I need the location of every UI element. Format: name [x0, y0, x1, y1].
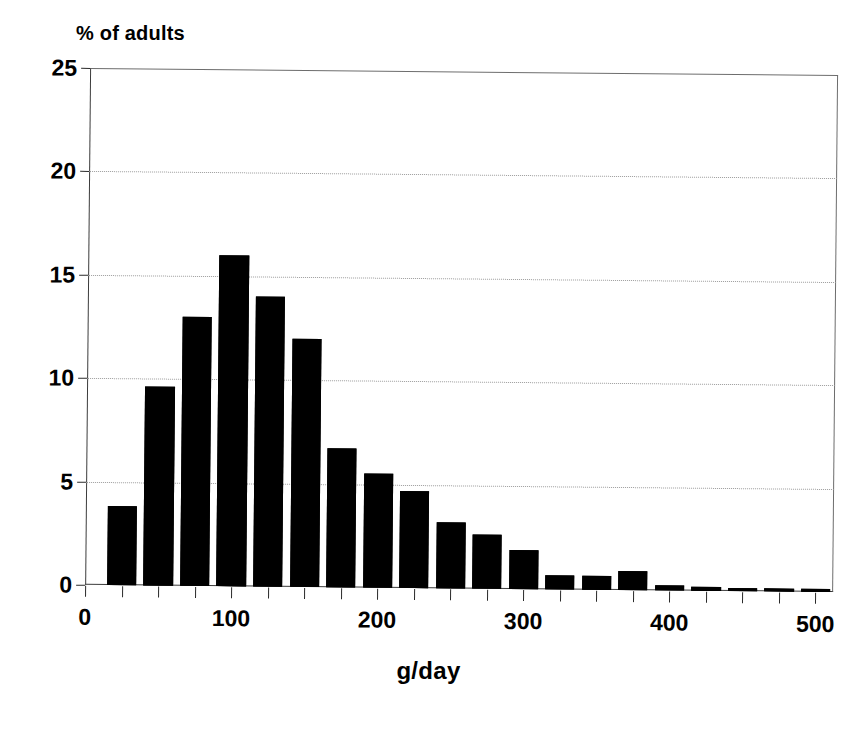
bar [253, 297, 285, 587]
bar [691, 587, 720, 591]
y-axis-tick [78, 378, 87, 379]
y-axis-tick-labels: 0510152025 [18, 67, 77, 584]
bar [217, 255, 249, 586]
x-axis-tick [195, 587, 196, 598]
x-axis-tick [596, 591, 597, 602]
x-axis-tick [85, 586, 86, 597]
x-axis-tick-label: 100 [212, 607, 251, 630]
x-axis-tick [122, 586, 123, 597]
y-axis-tick [81, 68, 90, 69]
bar [363, 474, 393, 588]
x-axis-tick [231, 587, 232, 598]
bar [180, 317, 212, 586]
x-axis-tick [268, 588, 269, 599]
bar [107, 506, 137, 585]
x-axis-tick [815, 593, 816, 604]
bar [618, 571, 647, 590]
bar [545, 575, 574, 590]
x-axis-tick [158, 587, 159, 598]
x-axis-tick-labels: 0100200300400500 [0, 605, 857, 653]
bar [399, 491, 429, 588]
x-axis-tick [341, 588, 342, 599]
y-axis-tick [79, 275, 88, 276]
y-axis-tick-label: 5 [60, 470, 73, 493]
x-axis-tick [742, 592, 743, 603]
bar [728, 588, 757, 591]
bar [509, 550, 539, 590]
x-axis-tick-label: 300 [504, 610, 543, 633]
y-axis-tick [77, 481, 86, 482]
bar [290, 339, 322, 587]
y-axis-tick [80, 171, 89, 172]
x-axis-tick [633, 591, 634, 602]
x-axis-title: g/day [0, 657, 857, 685]
x-axis-tick [560, 590, 561, 601]
bar [655, 585, 684, 590]
bar [582, 575, 611, 590]
chart-tilt-wrapper: 0510152025 0100200300400500 [0, 0, 857, 738]
bar [472, 535, 502, 589]
y-axis-tick-label: 20 [50, 160, 76, 183]
x-axis-tick [377, 589, 378, 600]
x-axis-tick [304, 588, 305, 599]
y-axis-tick-label: 0 [59, 574, 72, 597]
bar [144, 387, 175, 586]
x-axis-tick-label: 400 [650, 611, 689, 634]
x-axis-tick [487, 590, 488, 601]
y-axis-tick-label: 10 [48, 367, 74, 390]
x-axis-tick [414, 589, 415, 600]
x-axis-tick-label: 0 [78, 606, 91, 629]
bar [436, 522, 466, 588]
x-axis-tick [669, 591, 670, 602]
x-axis-tick [523, 590, 524, 601]
x-axis-tick [450, 589, 451, 600]
x-axis-tick [779, 593, 780, 604]
x-axis-tick-label: 200 [358, 608, 397, 631]
histogram-figure: % of adults 0510152025 0100200300400500 … [0, 0, 857, 738]
bar [801, 589, 830, 592]
plot-area [85, 68, 838, 592]
x-axis-tick [706, 592, 707, 603]
bar [326, 449, 357, 588]
bar [764, 588, 793, 591]
y-axis-tick-label: 25 [51, 57, 77, 80]
y-axis-tick [76, 585, 85, 586]
y-axis-tick-label: 15 [49, 263, 75, 286]
x-axis-tick-label: 500 [796, 613, 835, 636]
